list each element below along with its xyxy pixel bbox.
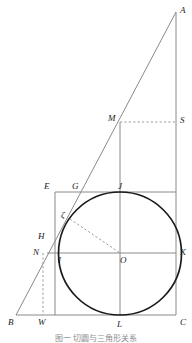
vertex-label-Z: ζ	[61, 211, 65, 220]
solid-lines-group	[16, 12, 176, 315]
vertex-label-G: G	[72, 182, 79, 191]
vertex-label-N: N	[33, 248, 39, 257]
vertex-label-J: J	[118, 182, 122, 191]
vertex-label-H: H	[38, 232, 45, 241]
segment-B-A	[16, 12, 176, 315]
vertex-label-O: O	[120, 256, 127, 265]
vertex-label-B: B	[8, 318, 14, 327]
vertex-label-K: K	[180, 248, 186, 257]
vertex-label-A: A	[180, 6, 186, 15]
vertex-label-I: I	[58, 256, 61, 265]
vertex-label-L: L	[117, 320, 122, 329]
segment-zeta-O	[70, 219, 120, 253]
vertex-label-W: W	[38, 318, 46, 327]
geometry-figure: ASMEGJζHNIOKBWLC 图一 切圆与三角形关系	[0, 0, 192, 343]
vertex-label-M: M	[108, 114, 116, 123]
vertex-label-S: S	[180, 116, 185, 125]
geometry-canvas	[0, 0, 192, 343]
vertex-label-C: C	[180, 318, 186, 327]
figure-caption: 图一 切圆与三角形关系	[0, 334, 192, 343]
vertex-label-E: E	[44, 182, 50, 191]
